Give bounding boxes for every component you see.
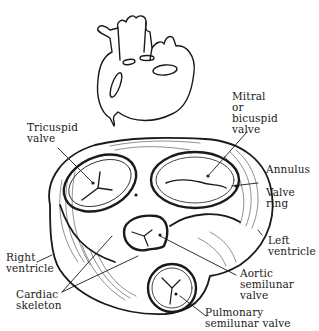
pointer-dots xyxy=(91,174,237,295)
label-cardiac-skeleton: Cardiac skeleton xyxy=(16,289,62,311)
heart-outline-icon xyxy=(98,16,195,126)
label-annulus: Annulus xyxy=(266,164,310,175)
label-mitral-valve: Mitral or bicuspid valve xyxy=(232,91,278,135)
aortic-valve-shape xyxy=(124,216,167,251)
label-aortic-semilunar-valve: Aortic semilunar valve xyxy=(240,268,294,301)
label-valve-ring: Valve ring xyxy=(266,187,295,209)
pulmonary-valve-shape xyxy=(148,264,196,312)
tricuspid-valve-shape xyxy=(55,143,146,222)
heart-valve-diagram: Tricuspid valve Mitral or bicuspid valve… xyxy=(0,0,319,331)
mitral-valve-shape xyxy=(151,152,239,208)
label-pulmonary-semilunar-valve: Pulmonary semilunar valve xyxy=(205,307,291,329)
label-tricuspid-valve: Tricuspid valve xyxy=(27,122,78,144)
label-left-ventricle: Left ventricle xyxy=(268,235,316,257)
leader-lines xyxy=(37,132,262,316)
label-right-ventricle: Right ventricle xyxy=(6,252,54,274)
